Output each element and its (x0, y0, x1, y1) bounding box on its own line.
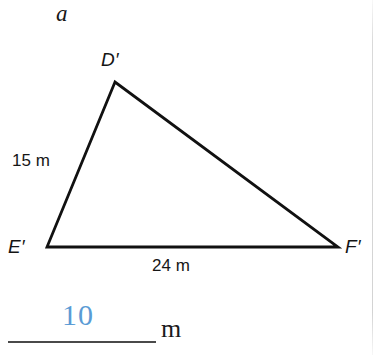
answer-input-value[interactable]: 10 (62, 300, 94, 330)
geometry-figure: a D′ E′ F′ 15 m 24 m 10 m (0, 0, 382, 355)
vertex-label-f-prime: F′ (345, 237, 361, 256)
triangle-outline (47, 82, 338, 247)
side-length-label-ef: 24 m (152, 257, 190, 274)
answer-blank-underline (8, 341, 156, 343)
vertex-label-d-prime: D′ (101, 50, 119, 69)
answer-unit-label: m (161, 316, 181, 342)
answer-blank-row: 10 m (0, 296, 382, 352)
side-length-label-de: 15 m (12, 152, 50, 169)
vertex-label-e-prime: E′ (8, 237, 25, 256)
